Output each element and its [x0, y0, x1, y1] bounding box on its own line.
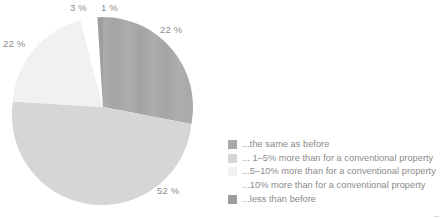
legend-item-5-10-percent-more: ...5–10% more than for a conventional pr…	[228, 165, 438, 179]
legend-item-10-percent-more: ...10% more than for a conventional prop…	[228, 179, 438, 193]
legend-item-less-than-before: ...less than before	[228, 192, 438, 206]
legend-item-label: ...less than before	[242, 194, 316, 205]
legend-item-label: ...10% more than for a conventional prop…	[242, 180, 426, 191]
pie-chart: 3 % 1 % 22 % 22 % 52 % ...the same as be…	[0, 0, 441, 219]
pie-value-label-10-percent-more: 3 %	[70, 2, 87, 13]
legend-swatch-icon	[228, 154, 237, 163]
legend-item-same-as-before: ...the same as before	[228, 138, 438, 152]
legend-item-label: ...5–10% more than for a conventional pr…	[242, 166, 436, 177]
legend-item-label: ... 1–5% more than for a conventional pr…	[242, 153, 433, 164]
legend-swatch-icon	[228, 140, 237, 149]
pie-value-label-less-than-before: 1 %	[101, 2, 118, 13]
legend-item-1-5-percent-more: ... 1–5% more than for a conventional pr…	[228, 152, 438, 166]
legend-swatch-icon	[228, 181, 237, 190]
legend-swatch-icon	[228, 195, 237, 204]
pie-graphic-area: 3 % 1 % 22 % 22 % 52 %	[0, 0, 220, 219]
legend-swatch-icon	[228, 167, 237, 176]
pie-value-label-same-as-before: 22 %	[160, 24, 182, 35]
pie-svg	[0, 0, 220, 219]
legend: ...the same as before ... 1–5% more than…	[228, 138, 438, 206]
legend-item-label: ...the same as before	[242, 139, 329, 150]
pie-value-label-1-5-percent-more: 52 %	[157, 185, 179, 196]
corner-mark	[434, 216, 439, 217]
pie-value-label-5-10-percent-more: 22 %	[3, 38, 25, 49]
